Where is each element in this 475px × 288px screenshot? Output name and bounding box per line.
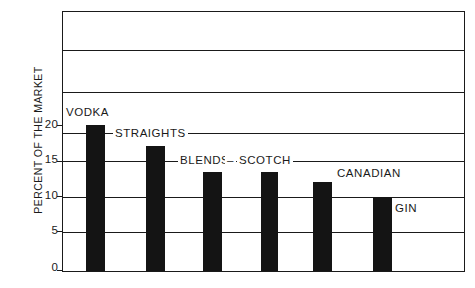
plot-area	[62, 11, 465, 272]
label-blends-scotch-dash: –	[225, 154, 236, 167]
label-scotch: SCOTCH	[237, 154, 293, 167]
gridline-30	[63, 92, 464, 93]
y-tick-15: 15	[32, 153, 58, 165]
label-canadian: CANADIAN	[335, 167, 403, 180]
label-gin: GIN	[393, 202, 419, 215]
y-axis-ticks: 20 15 10 5 0	[28, 0, 58, 288]
label-vodka: VODKA	[64, 106, 111, 119]
bar-straights	[146, 146, 165, 271]
label-straights: STRAIGHTS	[113, 127, 188, 140]
bar-scotch	[261, 172, 278, 271]
y-tick-5: 5	[32, 224, 58, 236]
leader-scotch	[293, 161, 327, 162]
bar-chart: PERCENT OF THE MARKET 20 15 10 5 0 VODKA…	[0, 0, 475, 288]
leader-blends	[168, 161, 178, 162]
y-tick-0: 0	[32, 261, 58, 273]
bar-vodka	[86, 125, 105, 271]
bar-blends	[203, 172, 222, 271]
y-tick-20: 20	[32, 118, 58, 130]
y-tick-10: 10	[32, 189, 58, 201]
gridline-35	[63, 50, 464, 51]
bar-canadian	[313, 182, 332, 271]
bar-gin	[373, 197, 392, 271]
label-blends: BLENDS	[178, 154, 231, 167]
